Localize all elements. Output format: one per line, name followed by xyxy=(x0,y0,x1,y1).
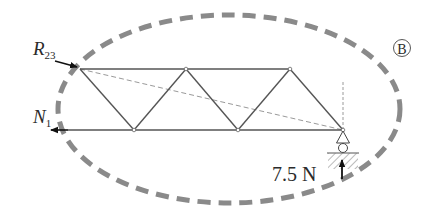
svg-text:B: B xyxy=(397,42,406,57)
label-r23: R23 xyxy=(32,38,56,61)
truss-diagram: R23 N1 7.5 N B xyxy=(0,0,440,218)
roller-support xyxy=(327,131,359,169)
region-marker-b: B xyxy=(394,40,411,57)
free-body-boundary xyxy=(58,15,400,203)
truss-joints xyxy=(132,67,345,132)
arrow-r23 xyxy=(55,61,77,67)
label-n1: N1 xyxy=(32,106,51,129)
label-reaction: 7.5 N xyxy=(272,163,316,185)
